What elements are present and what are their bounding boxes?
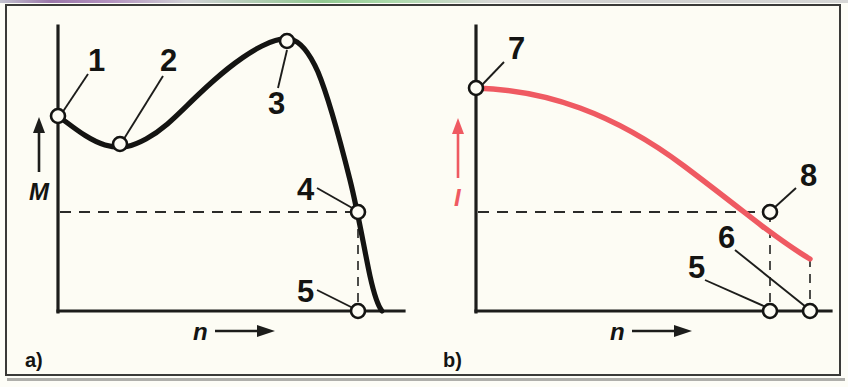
panel-b-marker-6[interactable] (803, 304, 817, 318)
panel-b-current-curve (476, 88, 810, 259)
panel-a-leader-3 (278, 50, 287, 88)
panel-a-callout-5: 5 (297, 276, 314, 307)
panel-b-leader-5 (705, 280, 766, 307)
panel-a-x-arrow-head (257, 325, 275, 337)
panel-a-callout-2: 2 (160, 45, 177, 76)
panel-b-leader-8 (774, 188, 796, 208)
panel-a-y-axis-label: M (29, 180, 49, 204)
panel-a-y-arrow-head (33, 117, 45, 133)
panel-b-leader-7 (481, 62, 504, 86)
panel-a-leader-5 (317, 290, 353, 308)
panel-a-marker-2[interactable] (113, 137, 127, 151)
panel-b-marker-7[interactable] (469, 81, 483, 95)
panel-b-y-arrow-head (452, 118, 464, 134)
panel-a-callout-4: 4 (297, 174, 314, 205)
panel-a-marker-4[interactable] (351, 205, 365, 219)
panel-a-marker-5[interactable] (351, 304, 365, 318)
diagram-canvas (0, 0, 848, 387)
panel-b-tag: b) (443, 350, 462, 370)
panel-b-x-axis-label: n (610, 320, 625, 344)
panel-a-torque-curve (58, 39, 382, 311)
panel-a-marker-1[interactable] (51, 109, 65, 123)
panel-b-callout-8: 8 (800, 160, 817, 191)
panel-a-callout-1: 1 (88, 45, 105, 76)
panel-b-y-axis-label: I (454, 186, 461, 210)
panel-a-tag: a) (25, 350, 43, 370)
panel-b-marker-8[interactable] (763, 205, 777, 219)
panel-a-leader-4 (317, 188, 354, 209)
panel-a-marker-3[interactable] (280, 34, 294, 48)
panel-b-callout-5: 5 (688, 252, 705, 283)
figure-root: 1 2 3 4 5 M n a) 7 8 6 5 I n b) (0, 0, 848, 387)
panel-a-leader-1 (62, 74, 88, 113)
panel-b-marker-5[interactable] (763, 304, 777, 318)
panel-a-x-axis-label: n (193, 320, 208, 344)
panel-b-callout-6: 6 (718, 222, 735, 253)
panel-b-group (452, 26, 831, 337)
panel-b-x-arrow-head (674, 325, 692, 337)
panel-b-callout-7: 7 (508, 33, 525, 64)
panel-a-callout-3: 3 (268, 88, 285, 119)
